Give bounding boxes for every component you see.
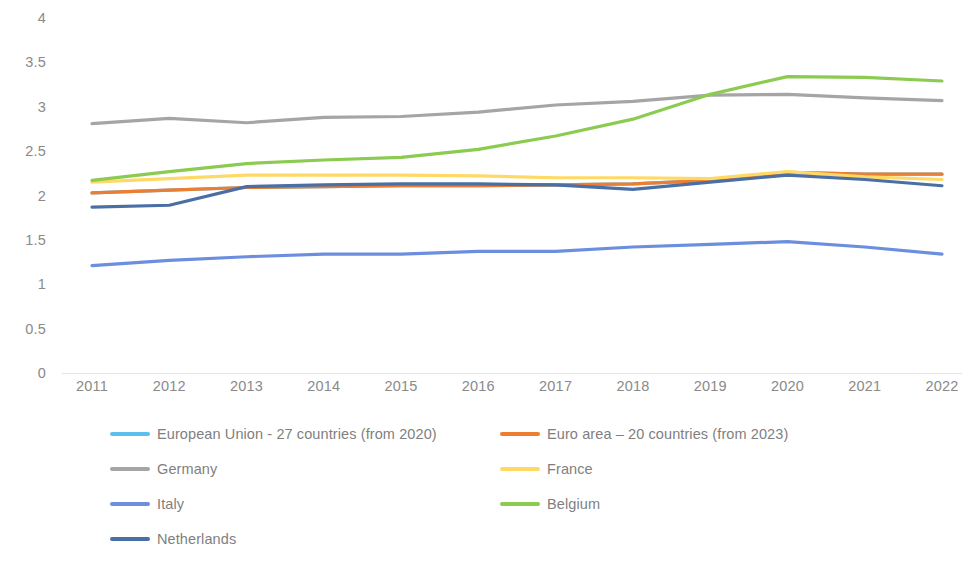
legend-item-label: European Union - 27 countries (from 2020… xyxy=(157,427,437,442)
x-axis-tick-label: 2022 xyxy=(925,379,958,394)
x-axis-tick-label: 2012 xyxy=(153,379,186,394)
series-line xyxy=(92,242,942,266)
series-line xyxy=(92,94,942,123)
legend-color-swatch xyxy=(110,432,150,436)
x-axis-tick-label: 2020 xyxy=(771,379,804,394)
x-axis-tick-label: 2011 xyxy=(76,379,108,394)
x-axis-tick-label: 2016 xyxy=(462,379,495,394)
legend-item[interactable]: European Union - 27 countries (from 2020… xyxy=(110,424,437,444)
legend-color-swatch xyxy=(110,537,150,541)
legend-item[interactable]: Netherlands xyxy=(110,529,236,549)
legend-color-swatch xyxy=(500,467,540,471)
y-axis: 00.511.522.533.54 xyxy=(0,18,56,373)
legend-item-label: Euro area – 20 countries (from 2023) xyxy=(547,427,788,442)
legend-item[interactable]: Germany xyxy=(110,459,217,479)
y-axis-tick-label: 0 xyxy=(38,366,46,381)
y-axis-tick-label: 0.5 xyxy=(25,322,46,337)
y-axis-tick-label: 1.5 xyxy=(25,233,46,248)
y-axis-tick-label: 3 xyxy=(38,100,46,115)
x-axis-tick-label: 2018 xyxy=(616,379,649,394)
legend-item[interactable]: Euro area – 20 countries (from 2023) xyxy=(500,424,788,444)
line-chart: 00.511.522.533.54 2011201220132014201520… xyxy=(0,0,971,568)
x-axis-tick-label: 2013 xyxy=(230,379,263,394)
legend-item[interactable]: France xyxy=(500,459,593,479)
y-axis-tick-label: 1 xyxy=(38,277,46,292)
chart-legend: European Union - 27 countries (from 2020… xyxy=(110,424,870,564)
plot-area xyxy=(62,18,962,373)
legend-item-label: Belgium xyxy=(547,497,600,512)
plot-series-svg xyxy=(62,18,962,373)
x-axis-tick-label: 2017 xyxy=(539,379,572,394)
x-axis-tick-label: 2021 xyxy=(848,379,881,394)
y-axis-tick-label: 2 xyxy=(38,189,46,204)
legend-item[interactable]: Italy xyxy=(110,494,184,514)
series-line xyxy=(92,77,942,181)
x-axis-line xyxy=(62,373,962,374)
x-axis: 2011201220132014201520162017201820192020… xyxy=(62,379,962,405)
legend-item[interactable]: Belgium xyxy=(500,494,600,514)
legend-item-label: France xyxy=(547,462,593,477)
legend-color-swatch xyxy=(500,502,540,506)
legend-item-label: Germany xyxy=(157,462,217,477)
x-axis-tick-label: 2014 xyxy=(307,379,340,394)
legend-item-label: Netherlands xyxy=(157,532,236,547)
y-axis-tick-label: 2.5 xyxy=(25,144,46,159)
series-line xyxy=(92,175,942,207)
y-axis-tick-label: 3.5 xyxy=(25,55,46,70)
legend-item-label: Italy xyxy=(157,497,184,512)
y-axis-tick-label: 4 xyxy=(38,11,46,26)
legend-color-swatch xyxy=(500,432,540,436)
legend-color-swatch xyxy=(110,467,150,471)
x-axis-tick-label: 2015 xyxy=(385,379,418,394)
legend-color-swatch xyxy=(110,502,150,506)
x-axis-tick-label: 2019 xyxy=(694,379,727,394)
